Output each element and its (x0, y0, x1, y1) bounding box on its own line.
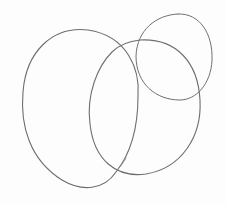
middle-oval (89, 40, 200, 175)
three-ovals-sketch (0, 0, 226, 204)
overlap-smudge (117, 158, 126, 170)
left-oval (22, 30, 138, 188)
right-circle (136, 14, 212, 100)
sketch-canvas (0, 0, 226, 204)
